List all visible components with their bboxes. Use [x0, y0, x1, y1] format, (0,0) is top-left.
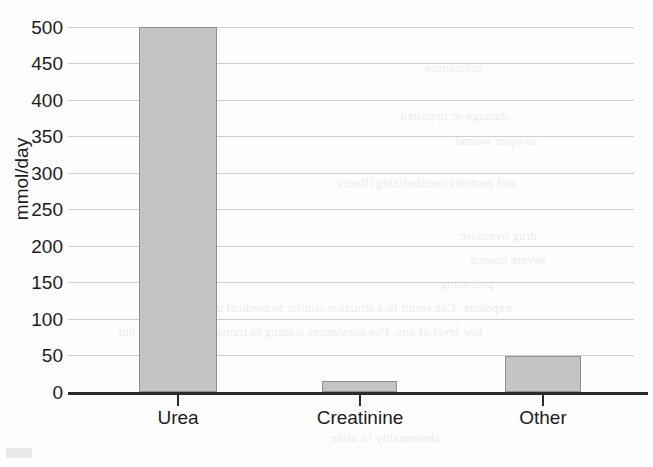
- xtick-label-creatinine: Creatinine: [270, 407, 450, 429]
- xtick-other: [542, 395, 544, 406]
- xtick-creatinine: [359, 395, 361, 406]
- xtick-label-other: Other: [453, 407, 633, 429]
- ytick-label-450: 450: [17, 53, 63, 75]
- xtick-urea: [177, 395, 179, 406]
- x-axis-baseline: [68, 392, 648, 395]
- ytick-label-100: 100: [17, 309, 63, 331]
- bar-chart-figure: substances damage or impaired an open wo…: [0, 0, 653, 467]
- ytick-label-200: 200: [17, 236, 63, 258]
- bar-urea[interactable]: [139, 27, 217, 392]
- ytick-label-50: 50: [17, 345, 63, 367]
- ytick-label-150: 150: [17, 272, 63, 294]
- plot-area: 500 450 400 350 300 250 200 150 100 50 0…: [0, 0, 653, 467]
- bar-other[interactable]: [505, 356, 581, 392]
- xtick-label-urea: Urea: [88, 407, 268, 429]
- ytick-label-0: 0: [17, 382, 63, 404]
- page-corner-artifact: [6, 448, 32, 458]
- y-axis-title: mmol/day: [11, 129, 33, 229]
- bar-creatinine[interactable]: [322, 381, 397, 392]
- ytick-label-500: 500: [17, 17, 63, 39]
- ytick-label-400: 400: [17, 90, 63, 112]
